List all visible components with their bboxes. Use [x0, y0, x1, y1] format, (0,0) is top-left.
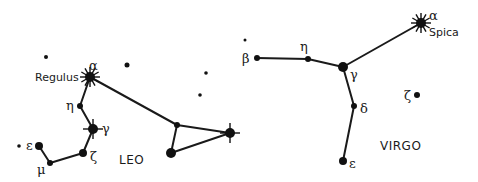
- greek-letter-label: μ: [37, 162, 45, 177]
- greek-letter-label: η: [300, 39, 308, 54]
- star-leo-mu: [47, 160, 53, 166]
- constellation-stars: [35, 13, 431, 166]
- star-vir-epsilon: [339, 157, 347, 165]
- constellation-diagram: αRegulusηγζμεLEOαSpicaβηγδεζVIRGO: [0, 0, 478, 182]
- star-leo-theta: [174, 122, 180, 128]
- star-vir-eta: [305, 56, 311, 62]
- star-leo-gamma: [83, 119, 103, 139]
- greek-letter-label: β: [242, 51, 250, 66]
- field-star: [125, 63, 130, 68]
- greek-letter-label: η: [66, 98, 74, 113]
- star-leo-zeta: [79, 149, 87, 157]
- constellation-line: [177, 125, 230, 133]
- constellation-line: [171, 133, 230, 153]
- constellation-line: [90, 77, 177, 125]
- star-vir-zeta: [414, 92, 420, 98]
- constellation-line: [257, 58, 308, 59]
- constellation-label: LEO: [119, 153, 144, 167]
- field-stars: [17, 39, 246, 148]
- greek-letter-label: δ: [360, 101, 368, 116]
- constellation-line: [343, 106, 354, 161]
- greek-letter-label: ε: [26, 138, 33, 153]
- star-leo-epsilon: [35, 142, 43, 150]
- star-vir-alpha: [411, 13, 431, 33]
- constellation-label: VIRGO: [380, 139, 421, 153]
- greek-letter-label: α: [89, 58, 98, 73]
- field-star: [198, 93, 202, 97]
- star-leo-delta: [166, 148, 176, 158]
- greek-letter-label: α: [429, 8, 438, 23]
- star-leo-beta: [220, 123, 240, 143]
- greek-letter-label: ε: [349, 156, 356, 171]
- star-name-label: Regulus: [35, 71, 79, 84]
- field-star: [204, 71, 208, 75]
- star-name-label: Spica: [429, 26, 459, 39]
- field-star: [17, 144, 21, 148]
- star-leo-eta: [77, 103, 83, 109]
- star-vir-beta: [254, 55, 260, 61]
- star-vir-gamma: [338, 62, 348, 72]
- greek-letter-label: ζ: [404, 88, 411, 103]
- star-labels: αRegulusηγζμεLEOαSpicaβηγδεζVIRGO: [26, 8, 459, 177]
- greek-letter-label: γ: [102, 121, 110, 136]
- constellation-line: [343, 23, 421, 67]
- greek-letter-label: γ: [350, 67, 358, 82]
- greek-letter-label: ζ: [90, 149, 97, 164]
- field-star: [244, 39, 247, 42]
- constellation-line: [50, 153, 83, 163]
- star-vir-delta: [351, 103, 357, 109]
- constellation-line: [308, 59, 343, 67]
- field-star: [44, 55, 48, 59]
